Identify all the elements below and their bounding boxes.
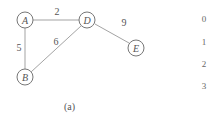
node-b: B: [17, 69, 33, 85]
index-label-3: 3: [198, 81, 208, 91]
edge-weight-b-d: 6: [54, 36, 59, 47]
node-d: D: [79, 12, 95, 28]
node-label-e: E: [132, 43, 139, 54]
edge-weight-a-b: 5: [17, 42, 22, 53]
node-e: E: [128, 40, 144, 56]
edge-b-d: [31, 26, 81, 72]
index-label-2: 2: [198, 59, 208, 69]
edge-weight-a-d: 2: [55, 6, 60, 17]
node-label-b: B: [22, 72, 28, 83]
node-a: A: [17, 12, 33, 28]
edge-weight-d-e: 9: [122, 17, 127, 28]
graph-diagram: 2 5 6 9 A D B E: [0, 0, 208, 121]
index-label-1: 1: [198, 37, 208, 47]
figure-caption: (a): [64, 101, 75, 112]
index-label-0: 0: [198, 14, 208, 24]
node-label-d: D: [82, 15, 91, 26]
node-label-a: A: [21, 15, 29, 26]
